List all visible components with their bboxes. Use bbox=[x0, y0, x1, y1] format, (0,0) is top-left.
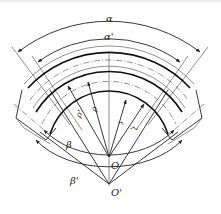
label-alpha-prime: α' bbox=[104, 31, 114, 42]
rho-line bbox=[88, 82, 109, 157]
label-alpha: α bbox=[106, 13, 113, 24]
label-center-O: O bbox=[111, 160, 119, 171]
rho-prime-line bbox=[68, 86, 109, 157]
label-rho-prime: ρ' bbox=[73, 109, 85, 120]
r-prime-line bbox=[109, 104, 144, 157]
label-rho: ρ bbox=[89, 105, 99, 113]
alpha-prime-extension-right bbox=[136, 56, 188, 130]
label-beta-prime: β' bbox=[69, 175, 79, 186]
bend-diagram: α α' β β' ρ' ρ r r' O O' bbox=[0, 0, 221, 214]
label-center-O-prime: O' bbox=[111, 187, 122, 198]
r-line bbox=[109, 100, 126, 157]
o-prime-line-1 bbox=[50, 90, 109, 184]
label-r: r bbox=[116, 120, 126, 128]
o-prime-line-4 bbox=[109, 132, 178, 184]
label-beta: β bbox=[65, 139, 72, 150]
